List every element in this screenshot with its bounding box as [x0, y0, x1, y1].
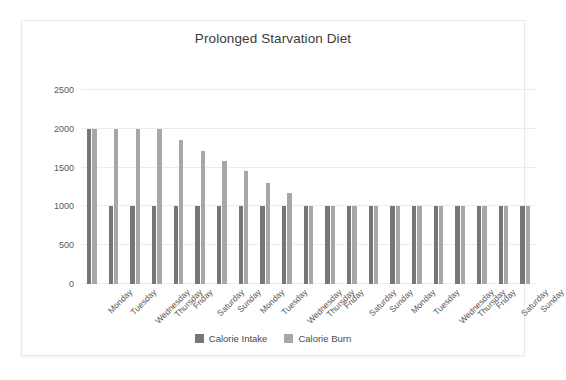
bar-intake[interactable] — [130, 206, 134, 284]
y-axis-tick-label: 2500 — [54, 85, 74, 95]
bar-intake[interactable] — [325, 206, 329, 284]
bar-burn[interactable] — [374, 206, 378, 284]
bar-intake[interactable] — [477, 206, 481, 284]
y-axis-tick-label: 1500 — [54, 163, 74, 173]
legend-label: Calorie Intake — [209, 333, 268, 344]
bar-burn[interactable] — [222, 161, 226, 284]
bar-burn[interactable] — [114, 129, 118, 284]
bar-group[interactable] — [369, 90, 379, 284]
bar-burn[interactable] — [331, 206, 335, 284]
chart-legend: Calorie IntakeCalorie Burn — [22, 333, 524, 344]
bar-intake[interactable] — [520, 206, 524, 284]
bar-group[interactable] — [260, 90, 270, 284]
bar-intake[interactable] — [282, 206, 286, 284]
bar-intake[interactable] — [239, 206, 243, 284]
bar-burn[interactable] — [439, 206, 443, 284]
bar-intake[interactable] — [347, 206, 351, 284]
bar-intake[interactable] — [455, 206, 459, 284]
legend-swatch-icon — [195, 334, 204, 343]
bar-group[interactable] — [109, 90, 119, 284]
bar-group[interactable] — [390, 90, 400, 284]
chart-card: Prolonged Starvation Diet 05001000150020… — [21, 20, 525, 356]
bar-burn[interactable] — [396, 206, 400, 284]
bar-burn[interactable] — [92, 129, 96, 284]
bar-intake[interactable] — [87, 129, 91, 284]
bar-burn[interactable] — [244, 171, 248, 284]
bar-group[interactable] — [282, 90, 292, 284]
bar-intake[interactable] — [412, 206, 416, 284]
bar-group[interactable] — [455, 90, 465, 284]
bar-intake[interactable] — [499, 206, 503, 284]
bar-intake[interactable] — [390, 206, 394, 284]
plot-area: 05001000150020002500 MondayTuesdayWednes… — [81, 90, 536, 284]
bar-burn[interactable] — [526, 206, 530, 284]
y-axis-tick-label: 0 — [69, 279, 74, 289]
bar-intake[interactable] — [152, 206, 156, 284]
bar-burn[interactable] — [201, 151, 205, 284]
bar-intake[interactable] — [434, 206, 438, 284]
bar-intake[interactable] — [369, 206, 373, 284]
bar-group[interactable] — [152, 90, 162, 284]
bar-group[interactable] — [477, 90, 487, 284]
bar-burn[interactable] — [309, 206, 313, 284]
bar-burn[interactable] — [482, 206, 486, 284]
bar-burn[interactable] — [504, 206, 508, 284]
bar-group[interactable] — [347, 90, 357, 284]
y-axis-tick-label: 2000 — [54, 124, 74, 134]
chart-title: Prolonged Starvation Diet — [22, 31, 524, 46]
bar-burn[interactable] — [266, 183, 270, 284]
bar-group[interactable] — [325, 90, 335, 284]
bar-group[interactable] — [217, 90, 227, 284]
bar-intake[interactable] — [217, 206, 221, 284]
bar-group[interactable] — [304, 90, 314, 284]
bar-series-container — [81, 90, 536, 284]
bar-group[interactable] — [174, 90, 184, 284]
bar-intake[interactable] — [109, 206, 113, 284]
bar-intake[interactable] — [195, 206, 199, 284]
bar-intake[interactable] — [260, 206, 264, 284]
y-axis-tick-label: 1000 — [54, 201, 74, 211]
bar-burn[interactable] — [157, 129, 161, 284]
legend-item[interactable]: Calorie Burn — [284, 333, 351, 344]
bar-burn[interactable] — [461, 206, 465, 284]
bar-group[interactable] — [195, 90, 205, 284]
bar-group[interactable] — [499, 90, 509, 284]
bar-burn[interactable] — [179, 140, 183, 284]
legend-swatch-icon — [284, 334, 293, 343]
legend-item[interactable]: Calorie Intake — [195, 333, 268, 344]
legend-label: Calorie Burn — [298, 333, 351, 344]
bar-burn[interactable] — [136, 129, 140, 284]
bar-burn[interactable] — [417, 206, 421, 284]
x-axis-tick-label: Tuesday — [431, 287, 461, 317]
bar-group[interactable] — [239, 90, 249, 284]
bar-burn[interactable] — [287, 193, 291, 284]
bar-intake[interactable] — [304, 206, 308, 284]
bar-burn[interactable] — [352, 206, 356, 284]
bar-group[interactable] — [130, 90, 140, 284]
bar-group[interactable] — [434, 90, 444, 284]
bar-group[interactable] — [520, 90, 530, 284]
y-axis-tick-label: 500 — [59, 240, 74, 250]
bar-group[interactable] — [87, 90, 97, 284]
bar-intake[interactable] — [174, 206, 178, 284]
bar-group[interactable] — [412, 90, 422, 284]
